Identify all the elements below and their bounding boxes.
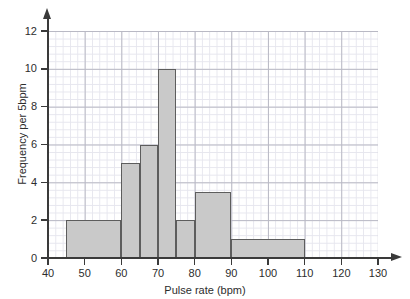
histogram-chart: 024681012 405060708090100110120130 Pulse… <box>0 0 410 299</box>
x-tick-label: 100 <box>253 268 283 279</box>
x-tick-label: 130 <box>363 268 393 279</box>
x-tick-label: 50 <box>70 268 100 279</box>
y-tick-mark <box>41 182 48 183</box>
histogram-bar <box>195 192 232 258</box>
y-axis-arrow-icon <box>43 8 51 19</box>
x-axis-title: Pulse rate (bpm) <box>0 284 410 296</box>
y-axis-title: Frequency per 5bpm <box>16 64 28 204</box>
y-tick-label: 12 <box>15 26 37 37</box>
histogram-bar <box>176 220 194 258</box>
x-tick-mark <box>121 258 122 265</box>
x-tick-mark <box>267 258 268 265</box>
x-tick-label: 120 <box>326 268 356 279</box>
y-tick-mark <box>41 219 48 220</box>
x-tick-mark <box>157 258 158 265</box>
x-tick-label: 90 <box>216 268 246 279</box>
x-tick-mark <box>47 258 48 265</box>
y-tick-mark <box>41 30 48 31</box>
y-axis-line <box>47 18 49 259</box>
x-tick-label: 70 <box>143 268 173 279</box>
y-tick-label: 0 <box>15 253 37 264</box>
x-tick-mark <box>304 258 305 265</box>
histogram-bar <box>158 69 176 258</box>
x-tick-mark <box>231 258 232 265</box>
histogram-bar <box>66 220 121 258</box>
y-tick-mark <box>41 68 48 69</box>
x-tick-mark <box>341 258 342 265</box>
bars-layer <box>48 31 378 258</box>
y-tick-label: 2 <box>15 215 37 226</box>
histogram-bar <box>231 239 304 258</box>
histogram-bar <box>140 145 158 259</box>
x-tick-mark <box>377 258 378 265</box>
x-axis-arrow-icon <box>391 253 402 261</box>
x-tick-label: 40 <box>33 268 63 279</box>
histogram-bar <box>121 163 139 258</box>
y-tick-mark <box>41 106 48 107</box>
x-tick-mark <box>84 258 85 265</box>
y-tick-mark <box>41 144 48 145</box>
x-tick-label: 110 <box>290 268 320 279</box>
x-tick-mark <box>194 258 195 265</box>
x-tick-label: 60 <box>106 268 136 279</box>
x-tick-label: 80 <box>180 268 210 279</box>
